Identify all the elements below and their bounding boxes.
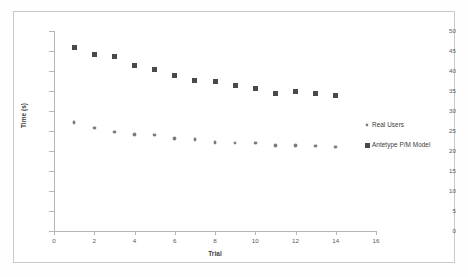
data-point bbox=[132, 63, 137, 68]
chart-figure: 05101520253035404550 0246810121416 Time … bbox=[0, 0, 468, 277]
data-point bbox=[253, 86, 258, 91]
legend-item: Real Users bbox=[362, 115, 454, 135]
legend-swatch-shape bbox=[365, 143, 370, 148]
data-point bbox=[192, 78, 197, 83]
legend-item: Antetype P/M Model bbox=[362, 135, 454, 155]
legend-item-label: Real Users bbox=[372, 122, 404, 128]
data-point bbox=[152, 67, 157, 72]
diamond-marker-icon bbox=[362, 124, 372, 127]
chart-frame: 05101520253035404550 0246810121416 Time … bbox=[13, 11, 455, 263]
chart-legend: Real UsersAntetype P/M Model bbox=[362, 115, 454, 155]
data-point bbox=[213, 79, 218, 84]
data-point bbox=[293, 89, 298, 94]
legend-item-label: Antetype P/M Model bbox=[372, 142, 430, 148]
data-point bbox=[112, 54, 117, 59]
data-point bbox=[233, 83, 238, 88]
plot-area: 05101520253035404550 0246810121416 Time … bbox=[14, 12, 456, 264]
data-point bbox=[273, 91, 278, 96]
data-point bbox=[333, 93, 338, 98]
data-point bbox=[72, 45, 77, 50]
data-point bbox=[92, 52, 97, 57]
data-point bbox=[313, 91, 318, 96]
square-marker-icon bbox=[362, 143, 372, 148]
legend-swatch-shape bbox=[366, 124, 369, 127]
data-point bbox=[172, 73, 177, 78]
